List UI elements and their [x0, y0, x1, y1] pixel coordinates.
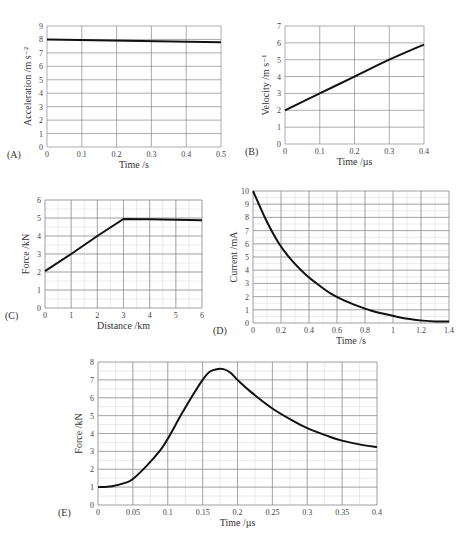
x-tick-label: 6: [200, 311, 204, 320]
y-tick-label: 3: [39, 103, 43, 112]
x-tick-label: 0.3: [302, 508, 312, 517]
x-tick-label: 0.35: [335, 508, 349, 517]
x-tick-label: 3: [122, 311, 126, 320]
y-axis-label: Current /mA: [228, 231, 239, 283]
y-axis-label: Velocity /m s⁻¹: [260, 54, 271, 115]
y-tick-label: 4: [245, 266, 249, 275]
panel-label: (C): [5, 310, 18, 322]
x-tick-label: 0.25: [265, 508, 279, 517]
x-tick-label: 0.2: [233, 508, 243, 517]
y-tick-label: 1: [277, 123, 281, 132]
y-tick-label: 5: [245, 253, 249, 262]
figure-canvas: 00.10.20.30.40.50123456789Time /sAcceler…: [0, 0, 471, 550]
y-tick-label: 2: [245, 293, 249, 302]
y-tick-label: 7: [90, 376, 94, 385]
y-tick-label: 2: [277, 106, 281, 115]
chart-b: 00.10.20.30.401234567Time /µsVelocity /m…: [245, 22, 429, 167]
y-axis-label: Force /kN: [20, 234, 31, 274]
y-tick-label: 6: [90, 394, 94, 403]
x-tick-label: 0: [96, 508, 100, 517]
y-tick-label: 0: [90, 501, 94, 510]
x-tick-label: 1: [391, 326, 395, 335]
y-tick-label: 8: [90, 358, 94, 367]
x-axis-label: Time /µs: [337, 156, 373, 167]
y-tick-label: 5: [37, 214, 41, 223]
x-tick-label: 4: [148, 311, 152, 320]
x-tick-label: 0.3: [384, 147, 394, 156]
chart-c: 01234560123456Distance /kmForce /kN(C): [5, 196, 204, 331]
x-tick-label: 0.3: [146, 150, 156, 159]
y-tick-label: 1: [39, 130, 43, 139]
y-tick-label: 4: [90, 430, 94, 439]
y-tick-label: 6: [37, 196, 41, 205]
x-tick-label: 1.2: [416, 326, 426, 335]
y-axis-label: Acceleration /m s⁻²: [22, 47, 33, 126]
y-tick-label: 4: [37, 232, 41, 241]
y-tick-label: 6: [277, 39, 281, 48]
grid: [47, 26, 221, 147]
x-tick-label: 0.05: [126, 508, 140, 517]
y-tick-label: 4: [277, 73, 281, 82]
y-tick-label: 2: [39, 116, 43, 125]
panel-label: (A): [7, 149, 21, 161]
x-tick-label: 1.4: [444, 326, 454, 335]
y-tick-label: 0: [37, 304, 41, 313]
y-tick-label: 2: [90, 465, 94, 474]
x-tick-label: 0.6: [332, 326, 342, 335]
x-tick-label: 0.1: [163, 508, 173, 517]
y-tick-label: 9: [245, 200, 249, 209]
y-tick-label: 0: [245, 319, 249, 328]
x-axis-label: Time /s: [336, 335, 366, 346]
y-tick-label: 6: [39, 62, 43, 71]
y-tick-label: 8: [245, 213, 249, 222]
x-tick-label: 0: [43, 311, 47, 320]
x-tick-label: 0.5: [216, 150, 226, 159]
x-axis-label: Time /µs: [220, 517, 256, 528]
panel-label: (E): [58, 507, 71, 519]
x-tick-label: 0: [251, 326, 255, 335]
x-tick-label: 0.15: [196, 508, 210, 517]
x-tick-label: 0.4: [304, 326, 314, 335]
y-tick-label: 0: [39, 143, 43, 152]
y-tick-label: 5: [277, 56, 281, 65]
x-tick-label: 0.8: [360, 326, 370, 335]
y-tick-label: 0: [277, 140, 281, 149]
x-tick-label: 0.4: [181, 150, 191, 159]
y-tick-label: 5: [39, 76, 43, 85]
grid: [45, 200, 202, 308]
chart-a: 00.10.20.30.40.50123456789Time /sAcceler…: [7, 22, 226, 170]
x-tick-label: 0.4: [372, 508, 382, 517]
x-tick-label: 2: [95, 311, 99, 320]
y-tick-label: 7: [245, 227, 249, 236]
y-tick-label: 1: [245, 306, 249, 315]
x-tick-label: 0.1: [315, 147, 325, 156]
x-tick-label: 0.1: [77, 150, 87, 159]
y-tick-label: 6: [245, 240, 249, 249]
x-tick-label: 0.2: [112, 150, 122, 159]
y-tick-label: 5: [90, 412, 94, 421]
x-tick-label: 5: [174, 311, 178, 320]
y-axis-label: Force /kN: [73, 413, 84, 453]
x-axis-label: Time /s: [119, 159, 149, 170]
grid: [285, 26, 424, 144]
y-tick-label: 2: [37, 268, 41, 277]
panel-label: (B): [245, 146, 258, 158]
chart-d: 00.20.40.60.811.21.4012345678910Time /sC…: [213, 187, 454, 346]
x-tick-label: 1: [69, 311, 73, 320]
data-line: [47, 39, 221, 42]
y-tick-label: 7: [39, 49, 43, 58]
y-tick-label: 7: [277, 22, 281, 31]
x-tick-label: 0.2: [276, 326, 286, 335]
y-tick-label: 9: [39, 22, 43, 31]
y-tick-label: 8: [39, 35, 43, 44]
chart-e: 00.050.10.150.20.250.30.350.4012345678Ti…: [58, 358, 382, 528]
y-tick-label: 10: [241, 187, 249, 196]
x-axis-label: Distance /km: [97, 320, 150, 331]
y-tick-label: 3: [245, 279, 249, 288]
y-tick-label: 3: [37, 250, 41, 259]
y-tick-label: 3: [277, 89, 281, 98]
panel-label: (D): [213, 325, 227, 337]
x-tick-label: 0.2: [350, 147, 360, 156]
y-tick-label: 1: [37, 286, 41, 295]
x-tick-label: 0.4: [419, 147, 429, 156]
